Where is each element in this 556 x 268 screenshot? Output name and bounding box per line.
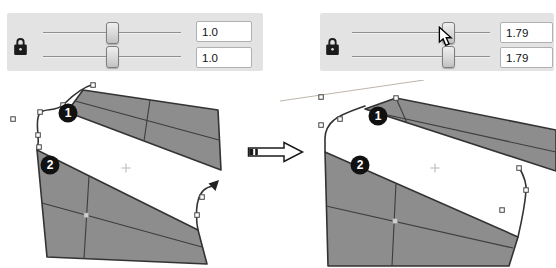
mesh-node-dot (84, 213, 89, 218)
callout-marker-2: 2 (41, 156, 60, 175)
scale-y-slider-track[interactable] (352, 56, 490, 58)
bottom-mesh-patch (37, 150, 207, 264)
path-direction-arrowhead (209, 180, 220, 191)
callout-marker-1: 1 (59, 104, 78, 123)
mesh-preview-after: 1 2 (278, 80, 556, 268)
scale-x-slider-track[interactable] (352, 32, 490, 34)
mesh-preview-before: 1 2 (0, 80, 248, 268)
scale-panel-after (320, 13, 554, 71)
pointer-cursor-icon (438, 26, 453, 52)
lock-icon-glyph (13, 36, 28, 56)
lock-icon[interactable] (325, 36, 340, 56)
top-mesh-patch (365, 98, 556, 171)
scale-x-value-field[interactable] (196, 21, 252, 42)
mesh-node-dot (393, 219, 398, 224)
top-mesh-patch (67, 90, 221, 170)
svg-text:2: 2 (47, 158, 54, 172)
drag-guide-line (280, 80, 424, 101)
shape-outline-right (197, 186, 214, 230)
scale-y-value-field[interactable] (196, 47, 252, 68)
callout-marker-2: 2 (351, 156, 370, 175)
svg-text:1: 1 (65, 106, 72, 120)
shape-outline-left (325, 106, 365, 152)
scale-x-value-field[interactable] (500, 22, 553, 43)
screenshot-root: 1 2 (0, 0, 556, 268)
svg-text:2: 2 (357, 158, 364, 172)
scale-x-slider-handle[interactable] (106, 22, 119, 44)
svg-text:1: 1 (375, 109, 382, 123)
scale-y-slider-handle[interactable] (106, 46, 119, 68)
lock-icon[interactable] (13, 36, 28, 56)
callout-marker-1: 1 (369, 107, 388, 126)
shape-outline-right (518, 167, 526, 237)
center-crosshair (431, 164, 440, 173)
lock-icon-glyph (325, 36, 340, 56)
center-crosshair (122, 164, 131, 173)
scale-y-value-field[interactable] (500, 47, 553, 68)
scale-panel-before (7, 13, 263, 71)
